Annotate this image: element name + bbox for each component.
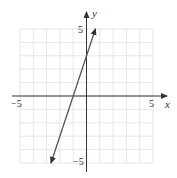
x-max-label: 5 — [149, 98, 154, 109]
x-min-label: −5 — [11, 98, 22, 109]
y-min-label: −5 — [73, 156, 84, 167]
x-axis-label: x — [164, 98, 170, 110]
coordinate-plane: −5 5 x 5 −5 y — [0, 0, 177, 178]
y-max-label: 5 — [78, 24, 83, 35]
y-axis-label: y — [91, 7, 97, 19]
